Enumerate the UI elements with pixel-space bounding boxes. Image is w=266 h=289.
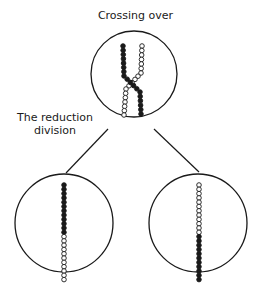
arrow-left <box>66 129 108 173</box>
left-daughter-chromosome <box>62 183 67 282</box>
arrow-right <box>154 129 199 172</box>
left-daughter-cell <box>15 174 113 282</box>
right-daughter-cell <box>149 174 247 282</box>
top-cell <box>91 31 177 117</box>
right-daughter-chromosome <box>197 183 202 282</box>
diagram-canvas <box>0 0 266 289</box>
